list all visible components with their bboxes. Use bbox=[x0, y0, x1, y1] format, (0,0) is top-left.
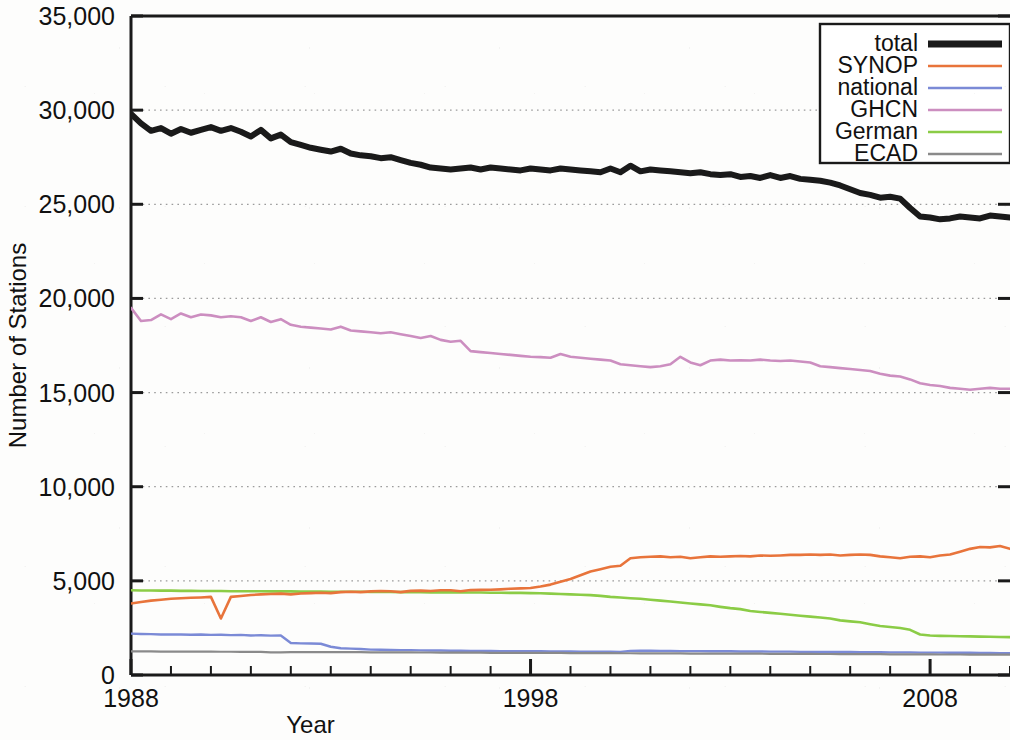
x-tick-label-2008: 2008 bbox=[902, 684, 958, 712]
chart-figure: 05,00010,00015,00020,00025,00030,00035,0… bbox=[0, 0, 1010, 740]
line-chart-canvas: 05,00010,00015,00020,00025,00030,00035,0… bbox=[0, 0, 1010, 740]
y-tick-label-20000: 20,000 bbox=[39, 284, 115, 312]
series-line-ghcn bbox=[131, 308, 1010, 390]
legend-label-ecad: ECAD bbox=[854, 140, 918, 166]
series-line-national bbox=[131, 634, 1010, 654]
y-axis-title: Number of Stations bbox=[4, 243, 31, 448]
x-axis-title: Year bbox=[286, 711, 335, 738]
y-tick-label-15000: 15,000 bbox=[39, 379, 115, 407]
y-tick-label-30000: 30,000 bbox=[39, 96, 115, 124]
series-line-synop bbox=[131, 546, 1010, 618]
y-tick-label-25000: 25,000 bbox=[39, 190, 115, 218]
x-tick-label-1998: 1998 bbox=[503, 684, 559, 712]
series-line-german bbox=[131, 590, 1010, 637]
y-tick-label-10000: 10,000 bbox=[39, 473, 115, 501]
x-tick-label-1988: 1988 bbox=[103, 684, 159, 712]
y-tick-label-35000: 35,000 bbox=[39, 2, 115, 30]
y-tick-label-5000: 5,000 bbox=[52, 567, 115, 595]
